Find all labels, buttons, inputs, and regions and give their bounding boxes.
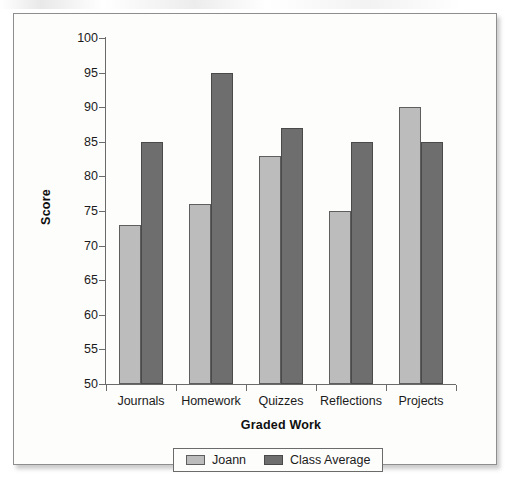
x-axis-tick [456, 385, 457, 391]
bar-journals-class-average [141, 142, 163, 384]
legend-label: Joann [212, 454, 246, 467]
x-axis-tick [106, 385, 107, 391]
chart-legend: JoannClass Average [173, 448, 383, 472]
y-axis-tick-label: 90 [38, 101, 98, 114]
y-axis-tick-label: 65 [38, 274, 98, 287]
y-axis-tick [99, 142, 105, 143]
legend-swatch-icon [264, 455, 283, 465]
y-axis-tick [99, 38, 105, 39]
bar-projects-class-average [421, 142, 443, 384]
bar-homework-class-average [211, 73, 233, 384]
y-axis-tick-label: 85 [38, 136, 98, 149]
x-axis-label-journals: Journals [106, 395, 176, 408]
y-axis-tick [99, 211, 105, 212]
x-axis-label-projects: Projects [386, 395, 456, 408]
x-axis-label-homework: Homework [176, 395, 246, 408]
x-axis-tick [316, 385, 317, 391]
y-axis-tick [99, 176, 105, 177]
x-axis-line [105, 384, 456, 385]
bar-reflections-class-average [351, 142, 373, 384]
y-axis-tick [99, 280, 105, 281]
y-axis-tick-label: 100 [38, 32, 98, 45]
y-axis-tick [99, 73, 105, 74]
legend-entry-joann: Joann [186, 454, 246, 467]
x-axis-tick [176, 385, 177, 391]
bar-quizzes-class-average [281, 128, 303, 384]
y-axis-tick-label: 50 [38, 378, 98, 391]
y-axis-tick [99, 107, 105, 108]
legend-label: Class Average [290, 454, 370, 467]
y-axis-tick-labels: 50556065707580859095100 [22, 14, 98, 466]
y-axis-tick [99, 315, 105, 316]
chart-figure-frame: 50556065707580859095100 JournalsHomework… [13, 13, 497, 465]
legend-entry-class-average: Class Average [264, 454, 370, 467]
y-axis-tick-label: 95 [38, 67, 98, 80]
legend-swatch-icon [186, 455, 205, 465]
bar-journals-joann [119, 225, 141, 384]
y-axis-tick [99, 384, 105, 385]
scan-artifact-strip [0, 0, 513, 9]
x-axis-label-quizzes: Quizzes [246, 395, 316, 408]
x-axis-label-reflections: Reflections [316, 395, 386, 408]
bar-chart: 50556065707580859095100 JournalsHomework… [14, 14, 498, 466]
bar-quizzes-joann [259, 156, 281, 384]
y-axis-title: Score [39, 167, 53, 247]
bar-projects-joann [399, 107, 421, 384]
plot-area [106, 38, 456, 384]
y-axis-tick-label: 55 [38, 343, 98, 356]
y-axis-tick [99, 349, 105, 350]
x-axis-title: Graded Work [106, 418, 456, 432]
x-axis-tick [386, 385, 387, 391]
bar-reflections-joann [329, 211, 351, 384]
y-axis-tick-label: 60 [38, 309, 98, 322]
bar-homework-joann [189, 204, 211, 384]
y-axis-tick [99, 246, 105, 247]
x-axis-tick [246, 385, 247, 391]
